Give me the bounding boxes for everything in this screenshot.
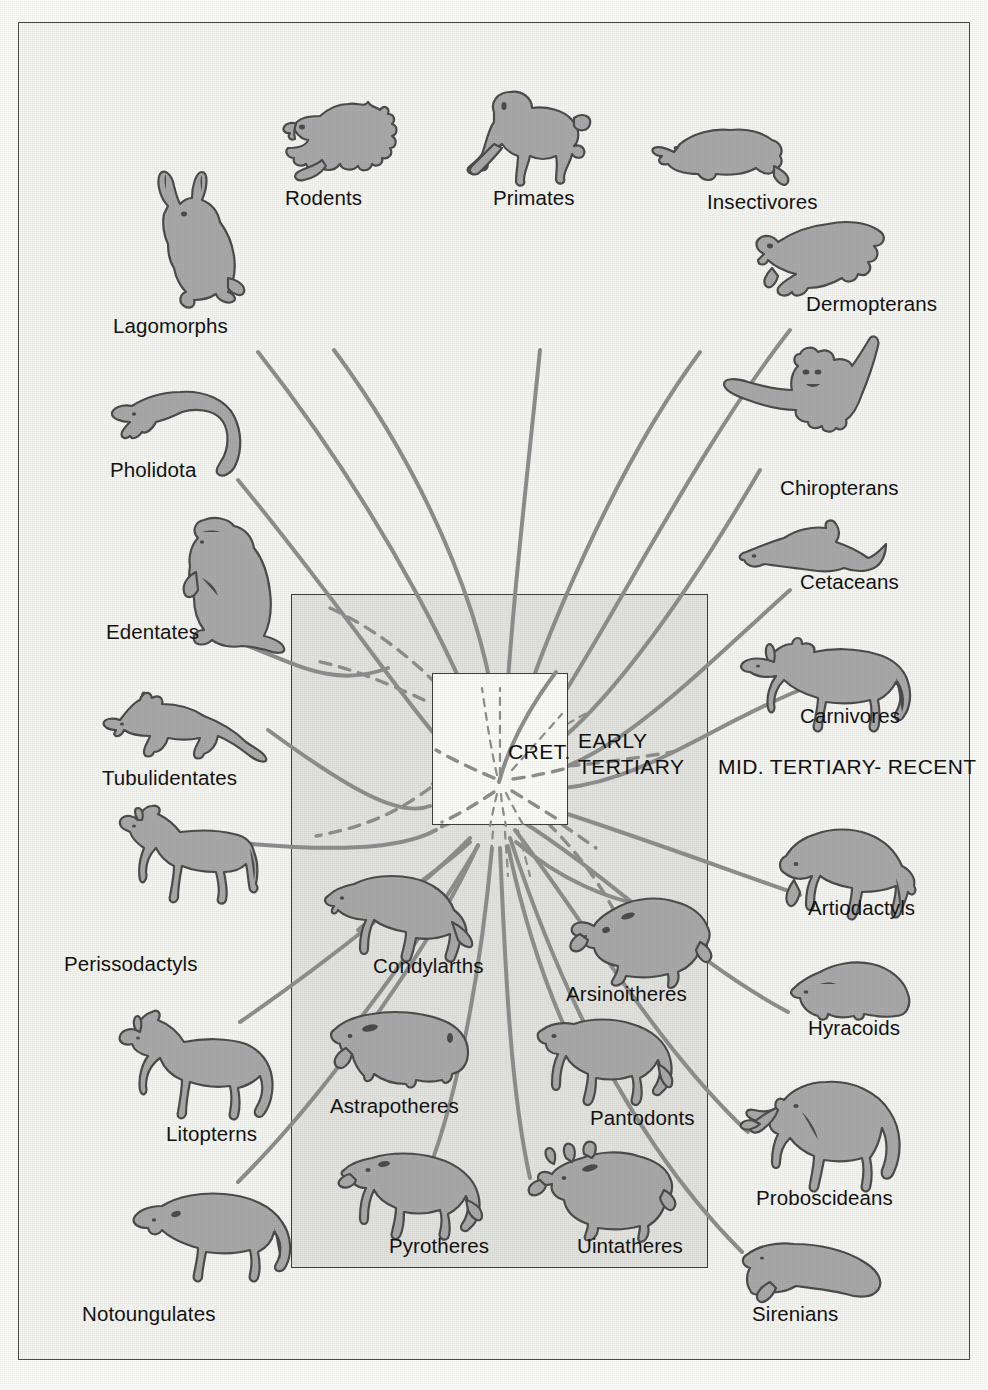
label-insectivores: Insectivores: [707, 190, 818, 214]
era-label-early-tertiary-line1: EARLY: [578, 729, 647, 752]
animal-pyrotheres: [336, 1150, 496, 1240]
animal-sirenians: [736, 1240, 886, 1310]
era-label-cretaceous: CRET.: [508, 740, 571, 764]
animal-primates: [452, 86, 592, 190]
animal-rodents: [272, 92, 402, 188]
animal-proboscideans: [740, 1078, 910, 1196]
label-astrapotheres: Astrapotheres: [330, 1094, 459, 1118]
label-pyrotheres: Pyrotheres: [389, 1234, 489, 1258]
animal-lagomorphs: [140, 170, 250, 320]
label-cetaceans: Cetaceans: [800, 570, 899, 594]
label-dermopterans: Dermopterans: [806, 292, 937, 316]
mammal-radiation-figure: CRET. EARLY TERTIARY MID. TERTIARY- RECE…: [0, 0, 988, 1390]
label-primates: Primates: [493, 186, 575, 210]
label-litopterns: Litopterns: [166, 1122, 257, 1146]
animal-astrapotheres: [324, 1010, 474, 1092]
label-sirenians: Sirenians: [752, 1302, 838, 1326]
era-label-mid-tertiary-recent: MID. TERTIARY- RECENT: [718, 755, 977, 779]
animal-perissodactyls: [108, 800, 268, 908]
label-notoungulates: Notoungulates: [82, 1302, 216, 1326]
animal-uintatheres: [528, 1144, 678, 1244]
label-pholidota: Pholidota: [110, 458, 196, 482]
label-chiropterans: Chiropterans: [780, 476, 899, 500]
animal-insectivores: [650, 114, 790, 194]
animal-pantodonts: [528, 1018, 688, 1108]
label-carnivores: Carnivores: [800, 704, 900, 728]
animal-tubulidentates: [100, 690, 270, 764]
label-arsinoitheres: Arsinoitheres: [566, 982, 687, 1006]
label-perissodactyls: Perissodactyls: [64, 952, 198, 976]
label-uintatheres: Uintatheres: [577, 1234, 683, 1258]
label-lagomorphs: Lagomorphs: [113, 314, 228, 338]
era-label-early-tertiary: EARLY TERTIARY: [578, 728, 684, 780]
label-pantodonts: Pantodonts: [590, 1106, 695, 1130]
animal-litopterns: [104, 1002, 284, 1120]
label-tubulidentates: Tubulidentates: [102, 766, 237, 790]
label-proboscideans: Proboscideans: [756, 1186, 893, 1210]
label-artiodactyls: Artiodactyls: [808, 896, 915, 920]
animal-notoungulates: [124, 1184, 304, 1284]
animal-arsinoitheres: [562, 890, 722, 990]
label-hyracoids: Hyracoids: [808, 1016, 900, 1040]
animal-condylarths: [318, 872, 488, 962]
label-edentates: Edentates: [106, 620, 199, 644]
label-rodents: Rodents: [285, 186, 362, 210]
label-condylarths: Condylarths: [373, 954, 484, 978]
era-label-early-tertiary-line2: TERTIARY: [578, 754, 684, 780]
animal-chiropterans: [722, 328, 892, 468]
